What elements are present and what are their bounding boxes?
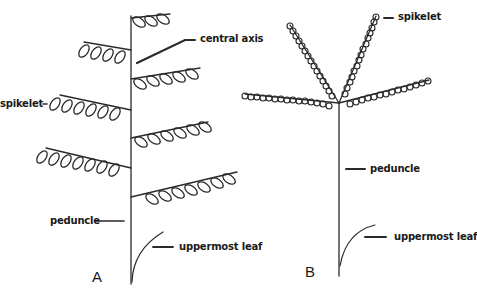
panel-b-letter: B <box>305 263 315 280</box>
panel-a-letter: A <box>92 268 102 285</box>
panel-a-branch-7-spikelets <box>144 172 237 207</box>
panel-b-uppermost-leaf-label: uppermost leaf <box>394 231 477 243</box>
panel-a-uppermost-leaf-label: uppermost leaf <box>179 241 262 253</box>
panel-a-central-axis-label: central axis <box>200 33 263 45</box>
panel-a-central-axis-leader <box>137 40 195 63</box>
panel-b-uppermost-leaf-curve <box>340 225 375 266</box>
panel-a-branch-2 <box>84 42 131 50</box>
panel-b-spikelet-label: spikelet <box>398 11 441 23</box>
panel-a-branch-2-spikelets <box>77 43 128 65</box>
panel-b-branch-upper-left-spikelets <box>287 23 335 99</box>
panel-a-uppermost-leaf-curve <box>132 232 163 282</box>
panel-a-branch-3-spikelets <box>132 67 200 92</box>
panel-a-branch-6-spikelets <box>35 149 122 178</box>
panel-a-peduncle-label: peduncle <box>50 215 100 227</box>
panel-b-branch-upper-right-spikelets <box>342 14 379 97</box>
panel-b-peduncle-label: peduncle <box>370 163 420 175</box>
panel-a-spikelet-label: spikelet <box>0 98 43 110</box>
